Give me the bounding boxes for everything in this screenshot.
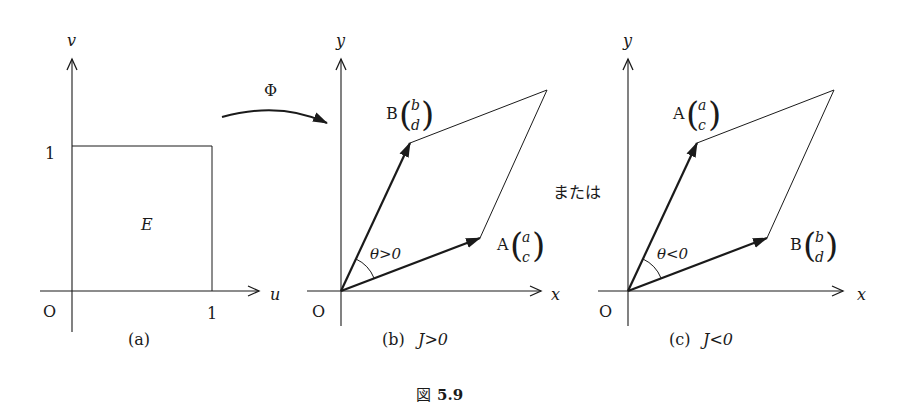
angle-label: θ>0 [370, 245, 402, 263]
u-axis-label: u [270, 285, 280, 304]
vector-bottom: d [411, 117, 420, 133]
panel-b-caption: (b) J>0 [382, 330, 448, 349]
point-name: B [386, 104, 398, 123]
vector-top: b [411, 97, 420, 113]
y-tick-label: 1 [45, 144, 55, 163]
or-label: または [553, 183, 601, 202]
vector-top: b [815, 229, 824, 245]
figure-5-9: v u 1 1 O E (a) Φ y x O θ>0 B ( b d ) A … [0, 0, 909, 412]
y-axis-label: y [335, 31, 346, 50]
panel-a-caption: (a) [128, 330, 150, 349]
right-paren: ) [708, 94, 721, 134]
map-arrow [222, 110, 327, 123]
region-label: E [140, 215, 153, 234]
point-lower-label: B ( b d ) [790, 225, 838, 265]
point-name: B [790, 235, 802, 254]
point-name: A [496, 235, 509, 254]
caption-prefix: (c) [669, 330, 690, 349]
point-lower-label: A ( a c ) [496, 225, 545, 265]
panel-c: y x O θ<0 A ( a c ) B ( b d ) (c) J<0 [598, 31, 866, 349]
caption-prefix: 図 [416, 386, 431, 404]
caption-condition: J<0 [700, 330, 733, 349]
point-upper-label: A ( a c ) [672, 94, 721, 134]
y-axis-label: y [622, 31, 633, 50]
point-name: A [672, 104, 685, 123]
origin-label: O [43, 302, 56, 321]
right-paren: ) [825, 225, 838, 265]
vector-top: a [698, 97, 706, 113]
vector-bottom: c [698, 117, 706, 133]
map-label: Φ [264, 81, 277, 100]
caption-prefix: (b) [382, 330, 405, 349]
caption-condition: J>0 [415, 330, 448, 349]
origin-label: O [312, 302, 325, 321]
vector-bottom: d [815, 249, 824, 265]
panel-b: y x O θ>0 B ( b d ) A ( a c ) (b) J>0 [307, 31, 560, 349]
origin-label: O [599, 302, 612, 321]
point-upper-label: B ( b d ) [386, 94, 434, 134]
x-axis-label: x [551, 285, 560, 304]
caption-number: 5.9 [437, 386, 463, 404]
vector-top: a [522, 229, 530, 245]
panel-c-caption: (c) J<0 [669, 330, 733, 349]
x-axis-label: x [857, 285, 866, 304]
x-tick-label: 1 [207, 304, 217, 323]
vector-bottom: c [522, 249, 530, 265]
angle-label: θ<0 [657, 245, 689, 263]
v-axis-label: v [67, 31, 76, 50]
panel-a: v u 1 1 O E (a) [40, 31, 280, 349]
right-paren: ) [421, 94, 434, 134]
map-phi: Φ [222, 81, 327, 123]
right-paren: ) [532, 225, 545, 265]
figure-caption: 図 5.9 [416, 386, 463, 404]
